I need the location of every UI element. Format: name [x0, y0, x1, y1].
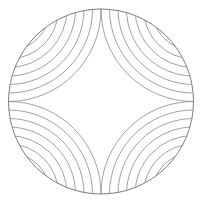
arc-line	[135, 0, 201, 68]
arc-circle-diagram	[0, 0, 201, 204]
arc-line	[0, 110, 93, 204]
outer-circle	[9, 9, 194, 194]
arc-line	[0, 119, 84, 205]
arc-line	[0, 0, 50, 51]
arc-line	[0, 127, 76, 204]
arc-line	[0, 0, 42, 42]
arc-line	[169, 170, 201, 205]
arc-line	[169, 0, 201, 34]
arc-line	[0, 161, 42, 204]
arc-line	[0, 0, 67, 68]
arc-line	[101, 0, 201, 102]
arc-line	[0, 170, 33, 205]
arc-line	[101, 102, 201, 205]
arc-line	[110, 110, 202, 204]
quadrant-top-right	[101, 0, 201, 102]
arc-line	[0, 153, 50, 205]
quadrant-arcs	[0, 0, 201, 204]
arc-line	[152, 0, 201, 51]
arc-line	[0, 0, 101, 102]
arc-line	[152, 153, 201, 205]
arc-line	[178, 0, 202, 25]
arc-line	[178, 178, 202, 204]
arc-line	[0, 0, 93, 93]
arc-line	[0, 0, 33, 34]
arc-line	[0, 178, 25, 204]
arc-line	[135, 136, 201, 205]
arc-line	[0, 136, 67, 205]
quadrant-top-left	[0, 0, 101, 102]
arc-line	[0, 0, 25, 25]
quadrant-bottom-left	[0, 102, 101, 205]
arc-line	[161, 161, 202, 204]
quadrant-bottom-right	[101, 102, 201, 205]
arc-line	[0, 0, 84, 85]
arc-line	[110, 0, 202, 93]
